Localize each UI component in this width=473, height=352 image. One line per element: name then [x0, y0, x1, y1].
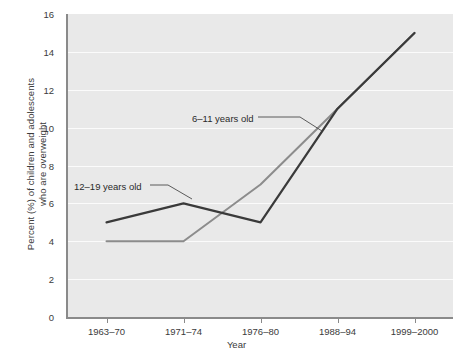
gridline [68, 128, 453, 129]
y-axis-tick-label: 8 [24, 160, 54, 171]
x-axis-tick-mark [338, 318, 339, 323]
gridline [68, 241, 453, 242]
x-axis-tick-label: 1963–70 [88, 326, 125, 337]
line-chart-figure: Percent (%) of children and adolescents … [0, 0, 473, 352]
y-axis-tick-label: 12 [24, 84, 54, 95]
y-axis-tick-label: 2 [24, 274, 54, 285]
x-axis-tick-label: 1971–74 [165, 326, 202, 337]
x-axis-tick-mark [107, 318, 108, 323]
y-axis-tick-label: 14 [24, 46, 54, 57]
x-axis-tick-label: 1988–94 [319, 326, 356, 337]
y-axis-tick-label: 4 [24, 236, 54, 247]
gridline [68, 90, 453, 91]
x-axis-tick-mark [415, 318, 416, 323]
y-axis-line [66, 14, 68, 318]
x-axis-line [66, 317, 453, 319]
x-axis-title: Year [0, 339, 473, 350]
y-axis-tick-label: 16 [24, 9, 54, 20]
gridline [68, 203, 453, 204]
gridline [68, 279, 453, 280]
x-axis-tick-label: 1999–2000 [391, 326, 439, 337]
series-annotation-12-19: 12–19 years old [74, 181, 142, 192]
gridline [68, 52, 453, 53]
y-axis-tick-label: 10 [24, 122, 54, 133]
series-annotation-6-11: 6–11 years old [192, 113, 254, 124]
y-axis-tick-label: 0 [24, 312, 54, 323]
gridline [68, 166, 453, 167]
x-axis-tick-mark [184, 318, 185, 323]
x-axis-tick-mark [261, 318, 262, 323]
plot-area [68, 14, 453, 317]
x-axis-tick-label: 1976–80 [242, 326, 279, 337]
y-axis-tick-label: 6 [24, 198, 54, 209]
y-axis-tick-labels: 0246810121416 [24, 0, 54, 352]
